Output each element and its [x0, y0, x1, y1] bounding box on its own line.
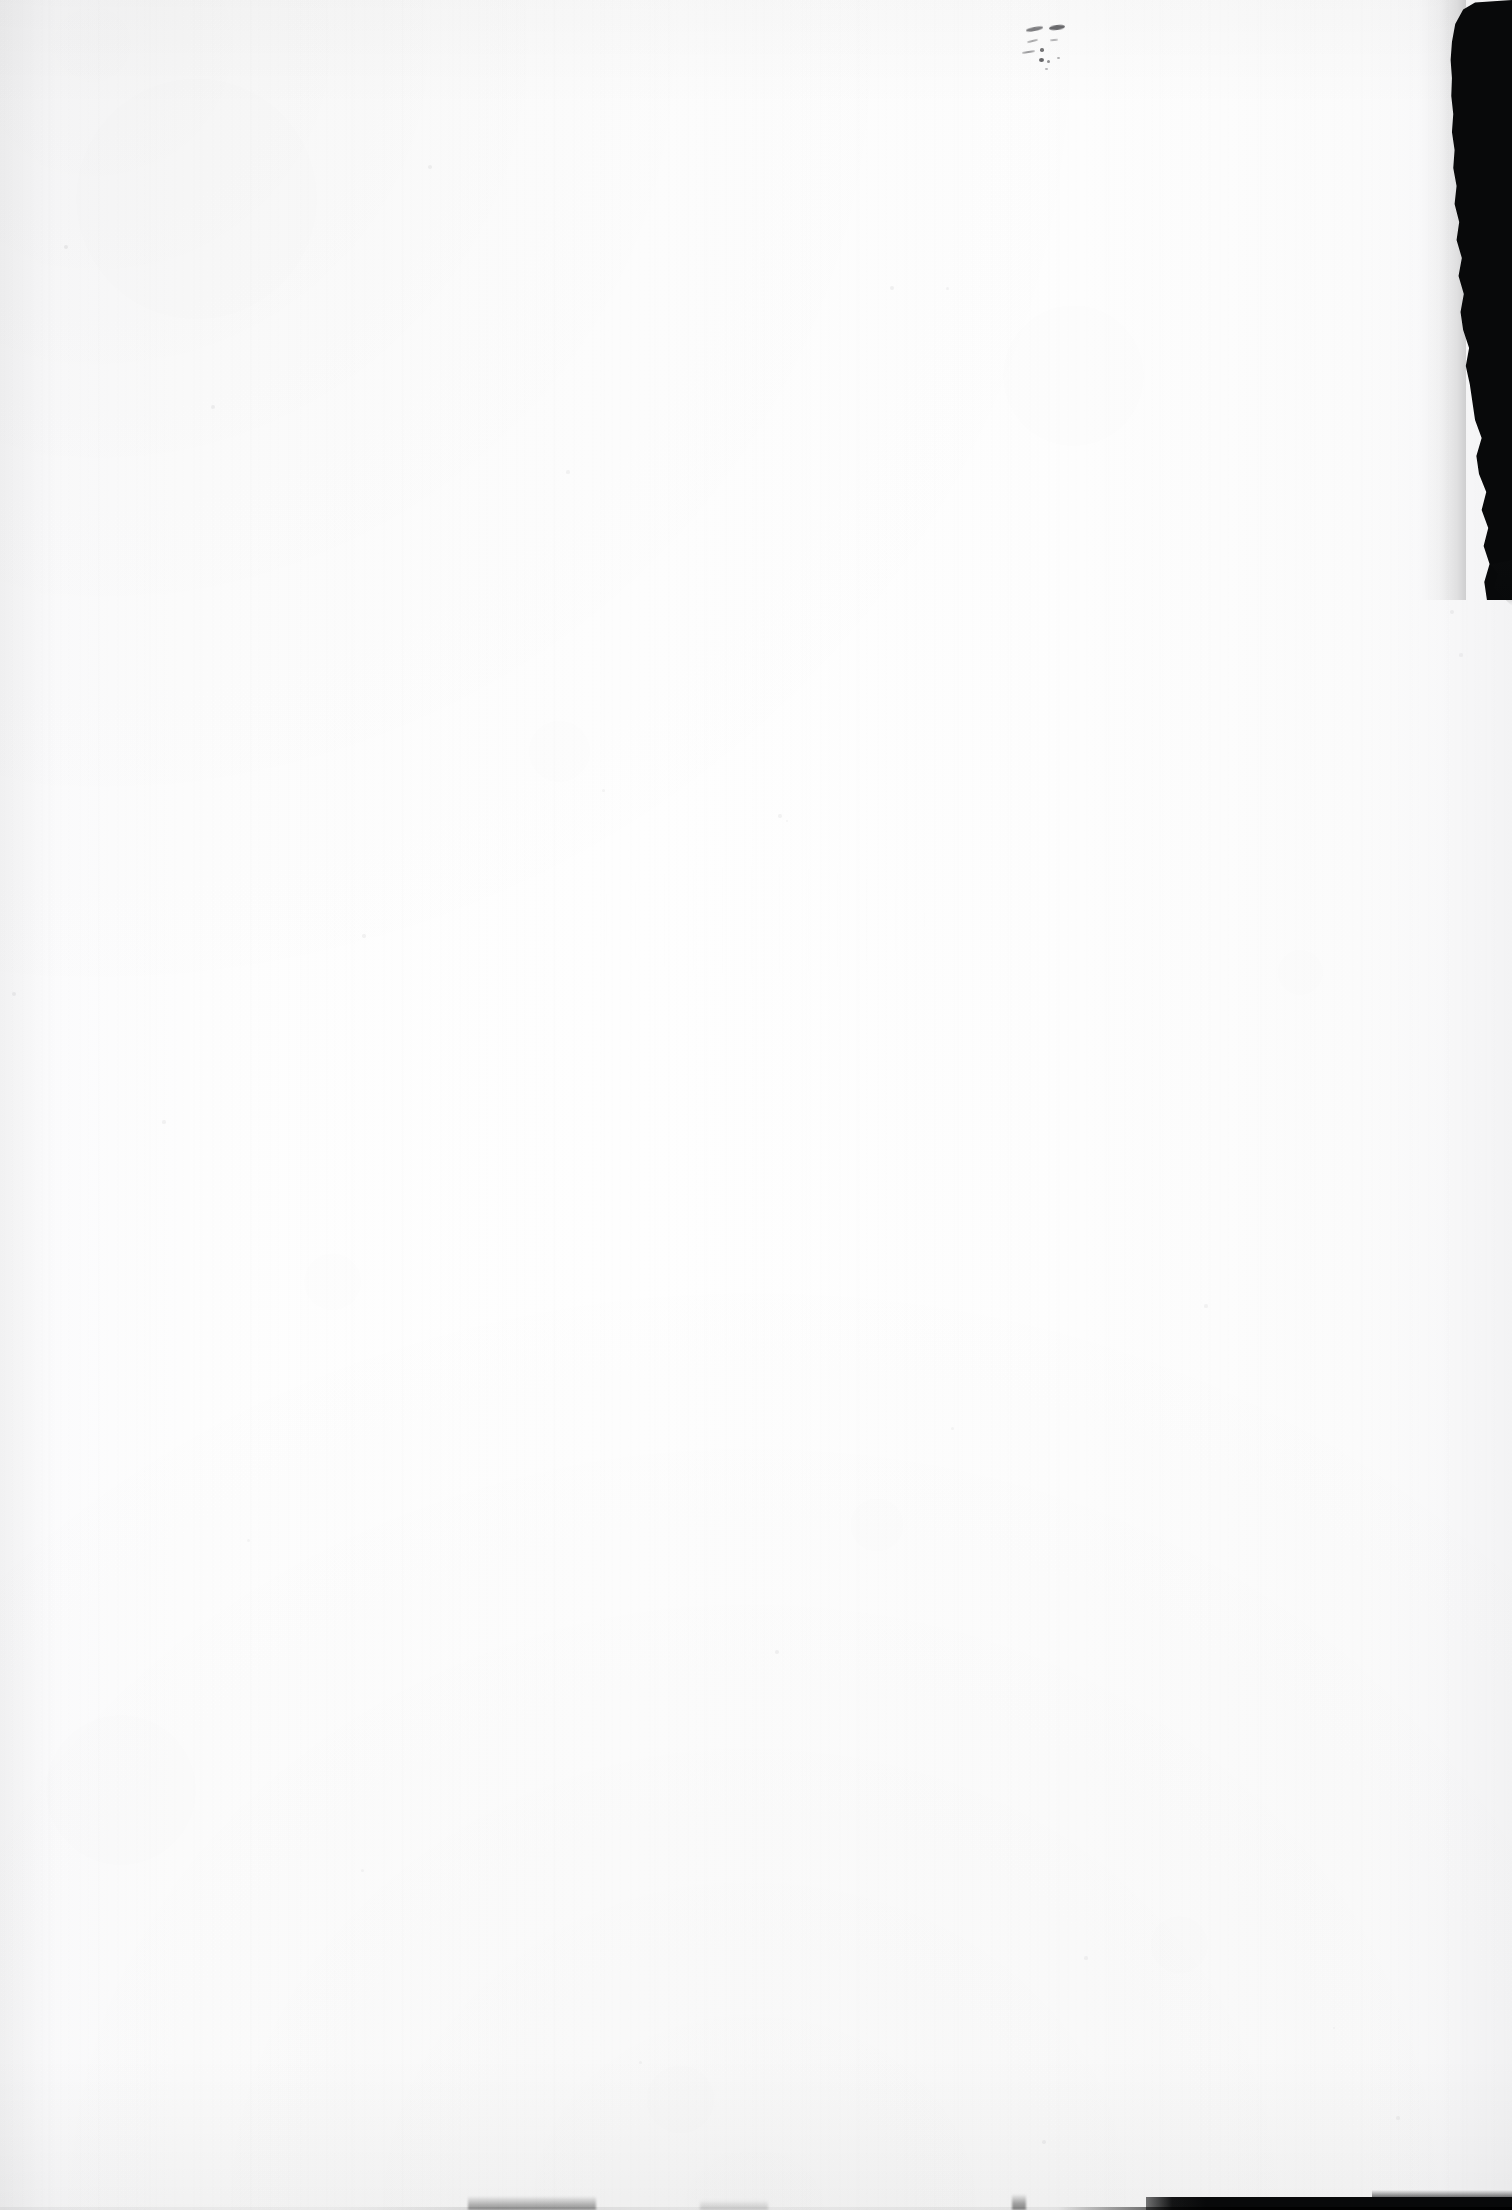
dust-speck — [211, 405, 215, 409]
dust-speck-layer — [0, 0, 1512, 2210]
dust-speck — [778, 814, 781, 817]
dust-speck — [362, 934, 365, 937]
pencil-mark-dot — [1040, 48, 1044, 52]
dust-speck — [1459, 653, 1462, 656]
dust-speck — [361, 1869, 364, 1872]
dust-speck — [1333, 2027, 1336, 2030]
dust-speck — [247, 1539, 250, 1542]
pencil-mark-dot — [1047, 60, 1050, 63]
pencil-mark-stroke — [1027, 39, 1038, 44]
dust-speck — [1042, 2140, 1046, 2144]
pencil-mark-stroke — [1050, 39, 1058, 42]
pencil-mark-stroke — [1049, 24, 1065, 31]
dust-speck — [1450, 610, 1454, 614]
dust-speck — [951, 1427, 954, 1430]
pencil-mark-dot — [1039, 58, 1044, 62]
dust-speck — [775, 1650, 779, 1654]
dust-speck — [566, 470, 569, 473]
dust-speck — [12, 992, 16, 996]
dust-speck — [639, 2061, 642, 2064]
pencil-mark-stroke — [1026, 25, 1043, 32]
dust-speck — [946, 287, 949, 290]
dust-speck — [786, 820, 789, 823]
dust-speck — [1204, 1304, 1207, 1307]
scanned-page-canvas — [0, 0, 1512, 2210]
pencil-mark-dot — [1057, 57, 1060, 59]
faint-pencil-marks — [1022, 18, 1102, 76]
pencil-mark-stroke — [1022, 50, 1035, 54]
dust-speck — [1084, 1956, 1087, 1959]
dust-speck — [64, 245, 69, 250]
dust-speck — [162, 1120, 165, 1123]
pencil-mark-dot — [1045, 68, 1048, 70]
dust-speck — [890, 286, 894, 290]
dust-speck — [428, 165, 432, 169]
dust-speck — [602, 789, 605, 792]
dust-speck — [1396, 2116, 1399, 2119]
